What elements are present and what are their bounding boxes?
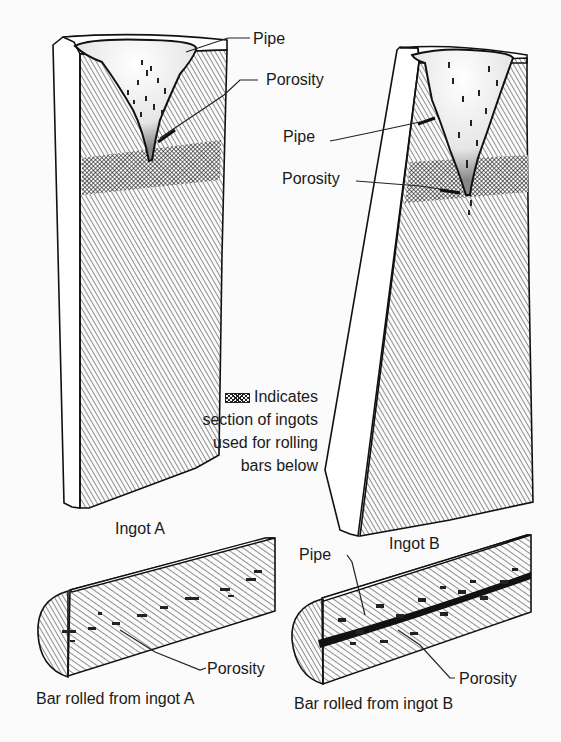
legend-line-4: bars below: [190, 454, 318, 477]
legend-line-2: section of ingots: [190, 408, 318, 431]
bar-a-porosity-label: Porosity: [207, 660, 265, 678]
legend: Indicates section of ingots used for rol…: [190, 385, 318, 477]
ingot-b-pipe-label: Pipe: [283, 128, 315, 146]
bar-b-pipe-label: Pipe: [299, 546, 331, 564]
ingot-b: [325, 47, 533, 536]
crosshatch-swatch-icon: [225, 393, 250, 403]
legend-line-3: used for rolling: [190, 431, 318, 454]
bar-b-caption: Bar rolled from ingot B: [294, 695, 453, 713]
ingot-a-porosity-label: Porosity: [266, 71, 324, 89]
bar-b-porosity-label: Porosity: [459, 670, 517, 688]
ingot-a-pipe-label: Pipe: [253, 30, 285, 48]
ingot-b-porosity-label: Porosity: [282, 170, 340, 188]
ingot-b-caption: Ingot B: [389, 535, 440, 553]
ingot-a-caption: Ingot A: [115, 520, 165, 538]
ingot-diagram: [0, 0, 561, 742]
bar-a: [38, 538, 275, 677]
legend-line-1: Indicates: [254, 388, 318, 405]
bar-a-caption: Bar rolled from ingot A: [36, 690, 194, 708]
